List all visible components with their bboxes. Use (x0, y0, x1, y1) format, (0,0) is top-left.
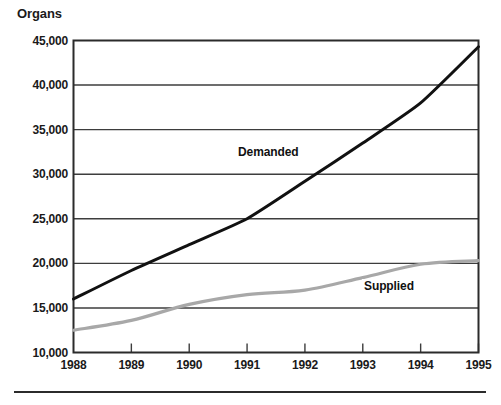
y-tick-label: 35,000 (4, 123, 68, 137)
series-label-supplied: Supplied (362, 279, 416, 293)
y-tick-label: 45,000 (4, 34, 68, 48)
x-tick-label: 1994 (408, 358, 434, 372)
series-label-demanded: Demanded (236, 145, 301, 159)
x-tick-label: 1989 (118, 358, 144, 372)
y-tick-label: 40,000 (4, 78, 68, 92)
plot-area (0, 0, 501, 405)
x-tick-label: 1992 (292, 358, 318, 372)
y-axis-tick-labels: 45,00040,00035,00030,00025,00020,00015,0… (0, 0, 68, 405)
x-tick-label: 1990 (176, 358, 202, 372)
gridlines (74, 85, 479, 308)
x-tick-label: 1991 (234, 358, 260, 372)
x-axis-ticks (131, 344, 478, 353)
y-tick-label: 15,000 (4, 301, 68, 315)
x-tick-label: 1995 (466, 358, 492, 372)
x-tick-label: 1993 (350, 358, 376, 372)
y-tick-label: 30,000 (4, 167, 68, 181)
plot-frame (74, 41, 479, 353)
y-tick-label: 10,000 (4, 346, 68, 360)
organ-supply-demand-chart: Organs 45,00040,00035,00030,00025,00020,… (0, 0, 501, 405)
y-tick-label: 25,000 (4, 212, 68, 226)
y-tick-label: 20,000 (4, 256, 68, 270)
footer-divider (14, 391, 486, 393)
x-tick-label: 1988 (61, 358, 87, 372)
series-lines (74, 47, 479, 330)
